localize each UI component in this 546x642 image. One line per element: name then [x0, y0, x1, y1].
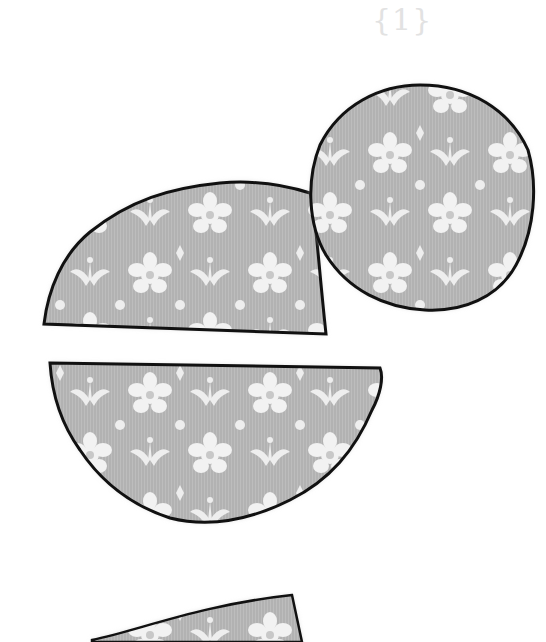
partial-bottom-piece	[92, 595, 302, 642]
pattern-pieces-illustration	[0, 0, 546, 642]
half-circle-bottom-piece	[50, 363, 382, 522]
half-circle-top-piece	[44, 182, 326, 334]
circle-piece	[311, 85, 534, 310]
